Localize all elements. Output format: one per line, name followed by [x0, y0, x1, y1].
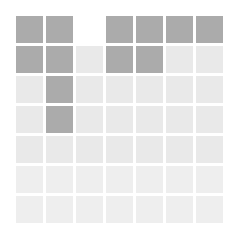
grid-cell-r2-c1[interactable]: [46, 76, 73, 103]
grid-cell-r5-c1[interactable]: [46, 166, 73, 193]
grid-cell-r4-c1[interactable]: [46, 136, 73, 163]
grid-cell-r6-c3[interactable]: [106, 196, 133, 223]
grid-cell-r4-c5[interactable]: [166, 136, 193, 163]
grid-cell-r3-c4[interactable]: [136, 106, 163, 133]
grid-cell-r6-c5[interactable]: [166, 196, 193, 223]
grid-cell-r5-c0[interactable]: [16, 166, 43, 193]
grid-cell-r4-c4[interactable]: [136, 136, 163, 163]
grid-cell-r2-c5[interactable]: [166, 76, 193, 103]
grid-cell-r3-c1[interactable]: [46, 106, 73, 133]
grid-cell-r1-c1[interactable]: [46, 46, 73, 73]
grid-cell-r5-c2[interactable]: [76, 166, 103, 193]
grid-cell-r4-c0[interactable]: [16, 136, 43, 163]
game-board: [16, 16, 223, 223]
grid-cell-r6-c6[interactable]: [196, 196, 223, 223]
grid-cell-r4-c2[interactable]: [76, 136, 103, 163]
grid-cell-r2-c4[interactable]: [136, 76, 163, 103]
grid-cell-r5-c5[interactable]: [166, 166, 193, 193]
grid-cell-r1-c2[interactable]: [76, 46, 103, 73]
grid-cell-r1-c3[interactable]: [106, 46, 133, 73]
grid-cell-r3-c5[interactable]: [166, 106, 193, 133]
grid-cell-r3-c6[interactable]: [196, 106, 223, 133]
grid-cell-r0-c0[interactable]: [16, 16, 43, 43]
grid-cell-r6-c0[interactable]: [16, 196, 43, 223]
grid-cell-r0-c2[interactable]: [76, 16, 103, 43]
grid-cell-r4-c3[interactable]: [106, 136, 133, 163]
grid-cell-r5-c6[interactable]: [196, 166, 223, 193]
grid-cell-r1-c6[interactable]: [196, 46, 223, 73]
grid-cell-r6-c4[interactable]: [136, 196, 163, 223]
grid-cell-r2-c0[interactable]: [16, 76, 43, 103]
grid-cell-r3-c3[interactable]: [106, 106, 133, 133]
grid-cell-r1-c0[interactable]: [16, 46, 43, 73]
grid-cell-r5-c3[interactable]: [106, 166, 133, 193]
grid-cell-r3-c2[interactable]: [76, 106, 103, 133]
grid-cell-r0-c6[interactable]: [196, 16, 223, 43]
grid-cell-r3-c0[interactable]: [16, 106, 43, 133]
grid-cell-r5-c4[interactable]: [136, 166, 163, 193]
grid-cell-r2-c6[interactable]: [196, 76, 223, 103]
grid-cell-r1-c4[interactable]: [136, 46, 163, 73]
grid-cell-r0-c4[interactable]: [136, 16, 163, 43]
grid-cell-r6-c2[interactable]: [76, 196, 103, 223]
grid-cell-r0-c3[interactable]: [106, 16, 133, 43]
grid-cell-r1-c5[interactable]: [166, 46, 193, 73]
grid-cell-r6-c1[interactable]: [46, 196, 73, 223]
grid-cell-r2-c2[interactable]: [76, 76, 103, 103]
grid-cell-r0-c5[interactable]: [166, 16, 193, 43]
grid-cell-r0-c1[interactable]: [46, 16, 73, 43]
grid-cell-r4-c6[interactable]: [196, 136, 223, 163]
grid-cell-r2-c3[interactable]: [106, 76, 133, 103]
